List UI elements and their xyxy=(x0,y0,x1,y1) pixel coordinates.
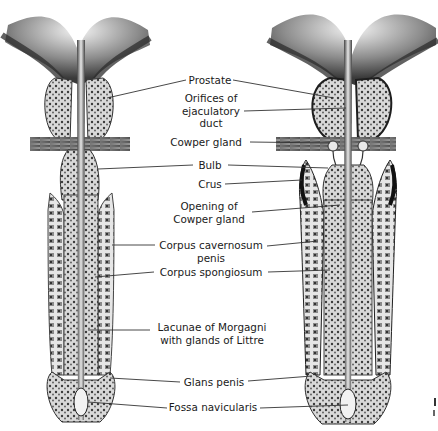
cropped-mark xyxy=(434,398,436,406)
label-crus: Crus xyxy=(197,178,223,191)
right-urethra xyxy=(344,40,352,422)
leader-bulb-right xyxy=(228,165,328,168)
right-specimen xyxy=(268,14,438,424)
label-corpus-spongiosum: Corpus spongiosum xyxy=(159,266,264,279)
label-corpus-cavernosum: Corpus cavernosum penis xyxy=(158,239,264,264)
leader-prostate-left xyxy=(107,80,186,98)
label-glans-penis: Glans penis xyxy=(183,376,245,389)
leader-crus xyxy=(225,180,302,184)
right-cowper-gland-right xyxy=(358,141,368,151)
label-opening-of-cowper-gland: Opening of Cowper gland xyxy=(172,200,246,225)
left-urethra xyxy=(77,40,85,420)
label-cowper-gland: Cowper gland xyxy=(169,136,243,149)
leader-bulb-left xyxy=(98,165,193,169)
label-bulb: Bulb xyxy=(197,159,222,172)
left-prostate xyxy=(45,78,72,142)
label-orifices: Orifices of ejaculatory duct xyxy=(181,92,241,130)
left-specimen xyxy=(2,16,150,422)
left-corpus-cavernosum-left xyxy=(48,193,64,375)
label-prostate: Prostate xyxy=(188,74,233,87)
right-fossa xyxy=(340,389,356,419)
left-fossa xyxy=(74,388,88,416)
right-bladder xyxy=(270,14,436,85)
leader-glans-right xyxy=(248,376,312,381)
right-cowper-gland-left xyxy=(328,141,338,151)
left-corpus-cavernosum-right xyxy=(98,193,114,375)
leader-glans-left xyxy=(110,378,180,382)
label-fossa-navicularis: Fossa navicularis xyxy=(168,401,259,414)
label-lacunae: Lacunae of Morgagni with glands of Littr… xyxy=(157,321,268,346)
